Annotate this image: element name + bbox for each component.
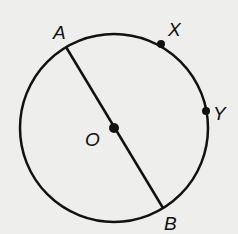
label-a: A — [52, 22, 66, 43]
point-x — [157, 40, 165, 48]
label-y: Y — [213, 103, 227, 124]
label-x: X — [167, 19, 182, 40]
circle-diagram: A X Y O B — [0, 0, 238, 234]
point-y — [202, 107, 210, 115]
center-point-o — [109, 123, 119, 133]
label-b: B — [164, 213, 177, 234]
label-o: O — [85, 129, 100, 150]
